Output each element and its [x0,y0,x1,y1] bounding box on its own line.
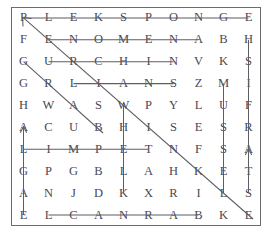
grid-letter-r9-c6[interactable]: X [136,182,161,204]
grid-letter-r7-c6[interactable]: T [136,138,161,160]
grid-letter-r4-c9[interactable]: M [211,73,236,95]
grid-letter-r7-c5[interactable]: E [111,138,136,160]
grid-letter-r6-c10[interactable]: R [236,117,261,139]
grid-letter-r6-c1[interactable]: A [11,117,36,139]
grid-letter-r1-c5[interactable]: S [111,7,136,29]
grid-letter-r1-c9[interactable]: G [211,7,236,29]
grid-letter-r6-c7[interactable]: S [161,117,186,139]
grid-letter-r5-c1[interactable]: H [11,95,36,117]
grid-letter-r8-c3[interactable]: G [61,160,86,182]
grid-letter-r5-c8[interactable]: L [186,95,211,117]
grid-letter-r1-c8[interactable]: N [186,7,211,29]
grid-letter-r9-c4[interactable]: D [86,182,111,204]
grid-letter-r6-c9[interactable]: S [211,117,236,139]
grid-letter-r7-c8[interactable]: F [186,138,211,160]
grid-letter-r1-c3[interactable]: E [61,7,86,29]
grid-letter-r5-c7[interactable]: Y [161,95,186,117]
grid-letter-r4-c1[interactable]: G [11,73,36,95]
grid-letter-r5-c4[interactable]: S [86,95,111,117]
grid-letter-r1-c2[interactable]: L [36,7,61,29]
grid-letter-r8-c7[interactable]: H [161,160,186,182]
grid-letter-r2-c10[interactable]: H [236,29,261,51]
grid-letter-r8-c8[interactable]: K [186,160,211,182]
grid-letter-r10-c10[interactable]: E [236,204,261,226]
grid-letter-r3-c8[interactable]: V [186,51,211,73]
grid-letter-r6-c2[interactable]: C [36,117,61,139]
grid-letter-r1-c1[interactable]: P [11,7,36,29]
grid-letter-r2-c6[interactable]: E [136,29,161,51]
grid-letter-r9-c7[interactable]: R [161,182,186,204]
grid-letter-r9-c2[interactable]: N [36,182,61,204]
grid-letter-r4-c3[interactable]: L [61,73,86,95]
grid-letter-r8-c1[interactable]: G [11,160,36,182]
grid-letter-r9-c5[interactable]: K [111,182,136,204]
grid-letter-r10-c8[interactable]: B [186,204,211,226]
grid-letter-r10-c9[interactable]: K [211,204,236,226]
grid-letter-r9-c9[interactable]: L [211,182,236,204]
grid-letter-r2-c4[interactable]: O [86,29,111,51]
grid-letter-r5-c3[interactable]: A [61,95,86,117]
grid-letter-r7-c4[interactable]: P [86,138,111,160]
grid-letter-r10-c5[interactable]: N [111,204,136,226]
grid-letter-r9-c8[interactable]: I [186,182,211,204]
grid-letter-r8-c2[interactable]: P [36,160,61,182]
grid-letter-r7-c1[interactable]: L [11,138,36,160]
grid-letter-r9-c1[interactable]: A [11,182,36,204]
grid-letter-r3-c5[interactable]: H [111,51,136,73]
grid-letter-r7-c9[interactable]: S [211,138,236,160]
grid-letter-r1-c4[interactable]: K [86,7,111,29]
grid-letter-r3-c4[interactable]: C [86,51,111,73]
grid-letter-r3-c7[interactable]: N [161,51,186,73]
grid-letter-r5-c6[interactable]: P [136,95,161,117]
grid-letter-r6-c6[interactable]: I [136,117,161,139]
grid-letter-r3-c9[interactable]: K [211,51,236,73]
grid-letter-r2-c7[interactable]: N [161,29,186,51]
grid-letter-r1-c10[interactable]: E [236,7,261,29]
grid-letter-r6-c4[interactable]: B [86,117,111,139]
grid-letter-r4-c8[interactable]: Z [186,73,211,95]
grid-letter-r2-c2[interactable]: E [36,29,61,51]
grid-letter-r2-c5[interactable]: M [111,29,136,51]
grid-letter-r7-c7[interactable]: N [161,138,186,160]
grid-letter-r2-c8[interactable]: A [186,29,211,51]
grid-letter-r6-c8[interactable]: E [186,117,211,139]
grid-letter-r1-c7[interactable]: O [161,7,186,29]
grid-letter-r3-c1[interactable]: G [11,51,36,73]
grid-letter-r4-c5[interactable]: A [111,73,136,95]
grid-letter-r2-c9[interactable]: B [211,29,236,51]
grid-letter-r8-c6[interactable]: A [136,160,161,182]
grid-letter-r3-c3[interactable]: R [61,51,86,73]
grid-letter-r10-c2[interactable]: L [36,204,61,226]
grid-letter-r8-c4[interactable]: B [86,160,111,182]
grid-letter-r5-c10[interactable]: F [236,95,261,117]
grid-letter-r10-c1[interactable]: E [11,204,36,226]
grid-letter-r8-c9[interactable]: E [211,160,236,182]
grid-letter-r7-c3[interactable]: M [61,138,86,160]
grid-letter-r7-c10[interactable]: A [236,138,261,160]
grid-letter-r3-c10[interactable]: S [236,51,261,73]
grid-letter-r8-c5[interactable]: L [111,160,136,182]
grid-letter-r3-c2[interactable]: U [36,51,61,73]
grid-letter-r7-c2[interactable]: I [36,138,61,160]
grid-letter-r8-c10[interactable]: T [236,160,261,182]
grid-letter-r6-c3[interactable]: U [61,117,86,139]
grid-letter-r10-c6[interactable]: R [136,204,161,226]
grid-letter-r1-c6[interactable]: P [136,7,161,29]
grid-letter-r9-c3[interactable]: J [61,182,86,204]
grid-letter-r4-c6[interactable]: N [136,73,161,95]
grid-letter-r6-c5[interactable]: H [111,117,136,139]
grid-letter-r5-c5[interactable]: W [111,95,136,117]
grid-letter-r2-c3[interactable]: N [61,29,86,51]
grid-letter-r10-c3[interactable]: C [61,204,86,226]
grid-letter-r2-c1[interactable]: F [11,29,36,51]
grid-letter-r4-c2[interactable]: R [36,73,61,95]
grid-letter-r9-c10[interactable]: S [236,182,261,204]
grid-letter-r10-c4[interactable]: A [86,204,111,226]
grid-letter-r3-c6[interactable]: I [136,51,161,73]
grid-letter-r4-c10[interactable]: I [236,73,261,95]
grid-letter-r5-c9[interactable]: U [211,95,236,117]
grid-letter-r10-c7[interactable]: A [161,204,186,226]
grid-letter-r5-c2[interactable]: W [36,95,61,117]
grid-letter-r4-c4[interactable]: I [86,73,111,95]
grid-letter-r4-c7[interactable]: S [161,73,186,95]
